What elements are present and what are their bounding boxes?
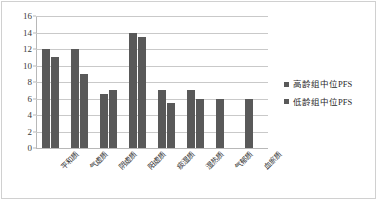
bars-layer — [36, 16, 268, 148]
y-axis-tick-label: 2 — [28, 127, 33, 136]
legend-item-label: 低龄组中位PFS — [293, 98, 352, 107]
bar[interactable] — [187, 90, 196, 148]
y-axis-tick-label: 4 — [28, 111, 33, 120]
x-axis-tick-label: 平和质 — [60, 151, 81, 172]
bar[interactable] — [167, 103, 176, 148]
y-axis-tick-label: 0 — [28, 144, 33, 153]
y-axis-tick-label: 10 — [23, 61, 32, 70]
x-axis-tick-label: 气郁质 — [234, 151, 255, 172]
x-axis-tick-label: 血瘀质 — [263, 151, 284, 172]
chart-container: 0246810121416 平和质气虚质阴虚质阳虚质痰湿质湿热质气郁质血瘀质 高… — [1, 1, 376, 199]
x-axis-tick-label: 气虚质 — [89, 151, 110, 172]
plot-area: 0246810121416 — [36, 16, 268, 148]
bar[interactable] — [80, 74, 89, 148]
bar-group — [65, 16, 94, 148]
bar-group — [181, 16, 210, 148]
bar[interactable] — [245, 99, 254, 149]
x-axis-tick-label: 痰湿质 — [176, 151, 197, 172]
y-axis-tick-label: 6 — [28, 94, 33, 103]
y-axis-tick-label: 12 — [23, 45, 32, 54]
bar-group — [239, 16, 268, 148]
bar[interactable] — [42, 49, 51, 148]
bar-group — [36, 16, 65, 148]
bar[interactable] — [109, 90, 118, 148]
legend-item-1[interactable]: 低龄组中位PFS — [284, 98, 376, 107]
bar-group — [210, 16, 239, 148]
x-axis-tick-label: 阳虚质 — [147, 151, 168, 172]
bar[interactable] — [138, 37, 147, 148]
bar[interactable] — [100, 94, 109, 148]
bar[interactable] — [216, 99, 225, 149]
legend-swatch-icon — [284, 82, 289, 87]
legend-item-label: 高龄组中位PFS — [293, 80, 352, 89]
y-axis-tick-label: 14 — [23, 28, 32, 37]
bar-group — [123, 16, 152, 148]
x-axis-tick-label: 湿热质 — [205, 151, 226, 172]
chart-legend: 高龄组中位PFS 低龄组中位PFS — [284, 80, 376, 115]
bar[interactable] — [51, 57, 60, 148]
bar[interactable] — [71, 49, 80, 148]
legend-item-0[interactable]: 高龄组中位PFS — [284, 80, 376, 89]
legend-swatch-icon — [284, 99, 289, 104]
x-axis-tick-label: 阴虚质 — [118, 151, 139, 172]
x-axis-labels: 平和质气虚质阴虚质阳虚质痰湿质湿热质气郁质血瘀质 — [36, 149, 268, 201]
bar[interactable] — [129, 33, 138, 149]
bar[interactable] — [196, 99, 205, 149]
y-axis-tick-label: 16 — [23, 12, 32, 21]
bar-group — [94, 16, 123, 148]
bar[interactable] — [158, 90, 167, 148]
y-axis-tick-label: 8 — [28, 78, 33, 87]
bar-group — [152, 16, 181, 148]
